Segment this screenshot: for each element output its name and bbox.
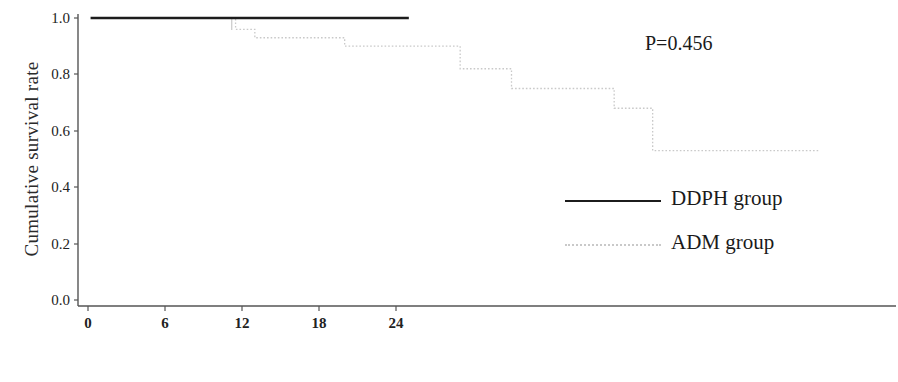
legend-label-ddph-group: DDPH group	[671, 186, 782, 211]
series-line-adm-group	[229, 17, 819, 151]
survival-chart-figure: Cumulative survival rate 1.0 0.8 0.6 0.4…	[0, 0, 898, 382]
legend-label-adm-group: ADM group	[671, 230, 774, 255]
series-path-adm-group	[229, 18, 819, 151]
legend-swatch-solid-icon	[565, 200, 661, 202]
legend-item-adm-group: ADM group	[565, 230, 865, 274]
p-value-annotation: P=0.456	[645, 32, 712, 55]
legend-item-ddph-group: DDPH group	[565, 186, 865, 230]
x-axis-ticks	[88, 306, 396, 311]
chart-legend: DDPH group ADM group	[565, 186, 865, 274]
legend-swatch-dotted-icon	[565, 244, 661, 246]
